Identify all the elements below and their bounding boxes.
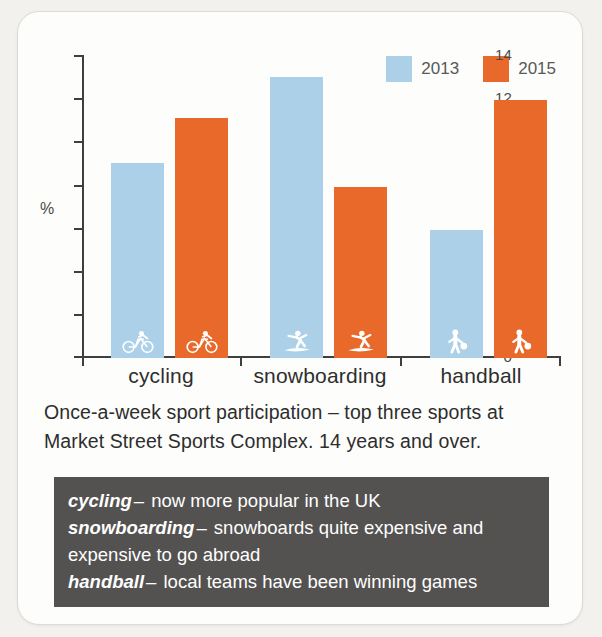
x-category-label-handball: handball (416, 364, 546, 388)
note-term-snowboarding: snowboarding (68, 517, 194, 538)
bar-cycling-2013 (111, 163, 164, 358)
note-dash-snowboarding: – (194, 517, 208, 538)
x-category-label-cycling: cycling (96, 364, 226, 388)
caption-line-1: Once-a-week sport participation – top th… (44, 398, 556, 427)
bar-cycling-2015 (175, 118, 228, 358)
bar-handball-2015 (494, 100, 547, 358)
bar-snowboarding-2013 (270, 77, 323, 358)
note-snowboarding: snowboarding– snowboards quite expensive… (68, 514, 535, 568)
snowboarder-icon (280, 327, 314, 355)
bar-handball-2013 (430, 230, 483, 358)
handball-player-icon (440, 327, 474, 355)
caption-line-2: Market Street Sports Complex. 14 years a… (44, 427, 556, 456)
bicycle-icon (121, 327, 155, 355)
bar-snowboarding-2015 (334, 187, 387, 358)
note-text-handball: local teams have been winning games (164, 571, 478, 592)
bicycle-icon (185, 327, 219, 355)
bar-group-container (82, 55, 560, 358)
handball-player-icon (504, 327, 538, 355)
chart-card: 2013 2015 14 12 10 8 6 4 2 0 % (17, 11, 583, 625)
snowboarder-icon (344, 327, 378, 355)
bar-chart-plot: 2013 2015 14 12 10 8 6 4 2 0 % (18, 12, 584, 362)
x-category-label-snowboarding: snowboarding (240, 364, 400, 388)
note-text-cycling: now more popular in the UK (151, 490, 380, 511)
note-dash-cycling: – (132, 490, 146, 511)
chart-caption: Once-a-week sport participation – top th… (44, 398, 556, 456)
note-handball: handball– local teams have been winning … (68, 568, 535, 595)
note-term-handball: handball (68, 571, 144, 592)
note-cycling: cycling– now more popular in the UK (68, 487, 535, 514)
y-axis-unit-label: % (40, 200, 54, 218)
note-term-cycling: cycling (68, 490, 132, 511)
notes-box: cycling– now more popular in the UK snow… (54, 477, 549, 607)
note-dash-handball: – (144, 571, 158, 592)
